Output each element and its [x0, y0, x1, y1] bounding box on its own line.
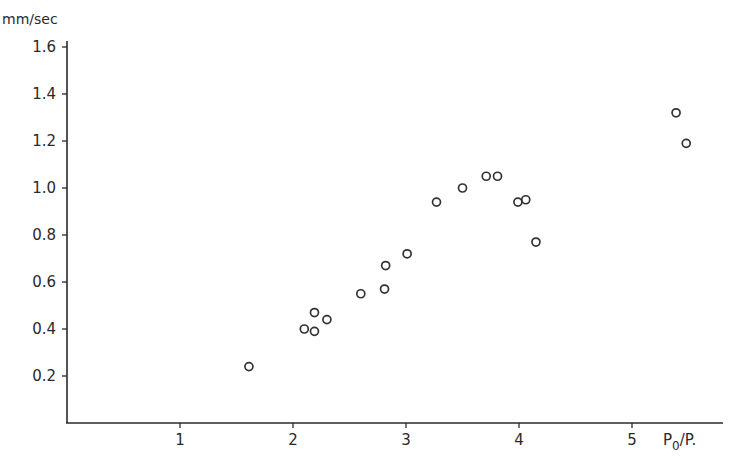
data-point-circle [522, 196, 530, 204]
x-tick-label: 5 [627, 431, 637, 449]
data-point-circle [403, 250, 411, 258]
data-point-circle [382, 262, 390, 270]
data-point-circle [433, 198, 441, 206]
x-tick-label: 4 [514, 431, 524, 449]
data-point-circle [310, 309, 318, 317]
data-point-circle [682, 139, 690, 147]
data-point-circle [482, 172, 490, 180]
y-tick-label: 0.4 [32, 320, 56, 338]
x-axis-label-tail: /P. [680, 431, 697, 449]
y-tick-label: 1.6 [32, 38, 56, 56]
x-tick-label: 3 [401, 431, 411, 449]
y-ticks: 0.20.40.60.81.01.21.41.6 [32, 38, 67, 385]
x-tick-label: 1 [175, 431, 185, 449]
x-axis-label-main: P [663, 431, 672, 449]
y-tick-label: 0.8 [32, 226, 56, 244]
data-point-circle [357, 290, 365, 298]
x-tick-label: 2 [288, 431, 298, 449]
data-point-circle [245, 363, 253, 371]
data-point-circle [532, 238, 540, 246]
x-axis-label-subscript: 0 [672, 439, 680, 453]
x-ticks: 12345 [175, 423, 637, 449]
data-points [245, 109, 690, 371]
data-point-circle [310, 327, 318, 335]
scatter-chart: mm/sec 0.20.40.60.81.01.21.41.6 12345 P0… [0, 0, 737, 468]
data-point-circle [494, 172, 502, 180]
data-point-circle [381, 285, 389, 293]
data-point-circle [323, 316, 331, 324]
y-tick-label: 1.0 [32, 179, 56, 197]
data-point-circle [672, 109, 680, 117]
data-point-circle [514, 198, 522, 206]
data-point-circle [300, 325, 308, 333]
y-tick-label: 0.6 [32, 273, 56, 291]
y-tick-label: 1.2 [32, 132, 56, 150]
y-tick-label: 0.2 [32, 367, 56, 385]
y-tick-label: 1.4 [32, 85, 56, 103]
y-axis-label: mm/sec [2, 11, 58, 27]
data-point-circle [459, 184, 467, 192]
x-axis-label: P0/P. [663, 431, 696, 453]
